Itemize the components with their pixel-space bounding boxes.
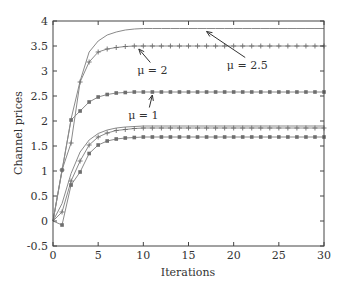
square-marker — [259, 135, 263, 139]
square-marker — [160, 135, 164, 139]
plus-marker — [141, 44, 146, 49]
square-marker — [250, 90, 254, 94]
square-marker — [196, 135, 200, 139]
plus-marker — [186, 44, 191, 49]
annotation-label: μ = 2 — [137, 64, 167, 77]
plus-marker — [114, 45, 119, 50]
y-tick-label: 3 — [41, 65, 48, 78]
plus-marker — [69, 141, 74, 146]
annotation-label: μ = 2.5 — [227, 59, 268, 72]
x-tick-label: 30 — [317, 249, 331, 262]
plus-marker — [231, 44, 236, 49]
y-tick-label: 4 — [41, 15, 48, 28]
square-marker — [196, 90, 200, 94]
square-marker — [60, 223, 64, 227]
y-tick-label: 2.5 — [31, 90, 49, 103]
square-marker — [250, 135, 254, 139]
plus-marker — [258, 44, 263, 49]
square-marker — [286, 90, 290, 94]
square-marker — [87, 100, 91, 104]
square-marker — [313, 135, 317, 139]
square-marker — [214, 90, 218, 94]
plus-marker — [123, 44, 128, 49]
plot-frame — [53, 21, 324, 246]
plus-marker — [150, 44, 155, 49]
square-marker — [123, 136, 127, 140]
square-marker — [241, 135, 245, 139]
plus-marker — [294, 44, 299, 49]
plus-marker — [276, 44, 281, 49]
square-marker — [87, 152, 91, 156]
square-marker — [223, 90, 227, 94]
square-marker — [105, 139, 109, 143]
square-marker — [142, 135, 146, 139]
square-marker — [205, 90, 209, 94]
x-tick-label: 15 — [182, 249, 196, 262]
square-marker — [151, 135, 155, 139]
y-tick-label: 3.5 — [31, 40, 49, 53]
square-marker — [277, 135, 281, 139]
plus-marker — [78, 80, 83, 85]
plus-marker — [123, 127, 128, 132]
square-marker — [304, 135, 308, 139]
square-marker — [96, 95, 100, 99]
x-tick-label: 5 — [95, 249, 102, 262]
square-marker — [123, 91, 127, 95]
square-marker — [295, 90, 299, 94]
x-tick-label: 0 — [50, 249, 57, 262]
annotation-arrow — [207, 32, 246, 58]
plus-marker — [105, 131, 110, 136]
square-marker — [133, 90, 137, 94]
y-tick-label: 1.5 — [31, 140, 49, 153]
square-marker — [142, 90, 146, 94]
y-tick-label: 0.5 — [31, 190, 49, 203]
square-marker — [277, 90, 281, 94]
square-marker — [304, 90, 308, 94]
y-tick-label: 1 — [41, 165, 48, 178]
plus-marker — [249, 44, 254, 49]
square-marker — [160, 90, 164, 94]
square-marker — [169, 135, 173, 139]
x-tick-label: 25 — [272, 249, 286, 262]
line-chart: 051015202530 -0.500.511.522.533.54 Itera… — [0, 0, 347, 284]
plot-markers — [60, 44, 327, 227]
square-marker — [178, 135, 182, 139]
plus-marker — [105, 47, 110, 52]
plus-marker — [267, 44, 272, 49]
x-tick-label: 20 — [227, 249, 241, 262]
square-marker — [313, 90, 317, 94]
plus-marker — [159, 44, 164, 49]
square-marker — [205, 135, 209, 139]
square-marker — [268, 90, 272, 94]
square-marker — [232, 90, 236, 94]
square-marker — [169, 90, 173, 94]
square-marker — [78, 170, 82, 174]
plus-marker — [168, 44, 173, 49]
square-marker — [114, 91, 118, 95]
plus-marker — [195, 44, 200, 49]
y-tick-label: 0 — [41, 215, 48, 228]
square-marker — [187, 90, 191, 94]
square-marker — [223, 135, 227, 139]
square-marker — [69, 183, 73, 187]
square-marker — [232, 135, 236, 139]
plus-marker — [312, 44, 317, 49]
x-axis-ticks: 051015202530 — [50, 21, 332, 262]
square-marker — [69, 118, 73, 122]
plus-marker — [204, 44, 209, 49]
square-marker — [187, 135, 191, 139]
square-marker — [114, 137, 118, 141]
square-marker — [133, 136, 137, 140]
square-marker — [96, 143, 100, 147]
square-marker — [60, 168, 64, 172]
y-tick-label: -0.5 — [27, 240, 48, 253]
y-axis-ticks: -0.500.511.522.533.54 — [27, 15, 324, 253]
y-tick-label: 2 — [41, 115, 48, 128]
x-tick-label: 10 — [136, 249, 150, 262]
square-marker — [286, 135, 290, 139]
series-line — [53, 128, 324, 221]
plus-marker — [303, 44, 308, 49]
plus-marker — [240, 44, 245, 49]
plus-marker — [285, 44, 290, 49]
series-line — [53, 137, 324, 225]
